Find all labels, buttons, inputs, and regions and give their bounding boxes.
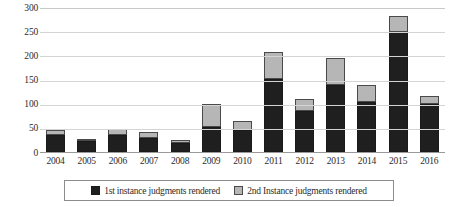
bar-segment-first-instance: [46, 135, 65, 152]
x-axis-tick-label: 2010: [227, 155, 258, 169]
legend-item[interactable]: 1st instance judgments rendered: [91, 186, 220, 196]
plot-area: 300250200150100500: [0, 8, 453, 154]
black-square-icon: [91, 186, 100, 195]
bar-stack: [171, 140, 190, 152]
x-axis-tick-label: 2016: [414, 155, 445, 169]
bar-segment-first-instance: [77, 141, 96, 152]
bar-stack: [357, 85, 376, 152]
x-axis-tick-label: 2006: [102, 155, 133, 169]
bar-segment-first-instance: [389, 32, 408, 152]
bar-column: [71, 7, 102, 152]
bar-column: [165, 7, 196, 152]
bar-segment-first-instance: [295, 111, 314, 152]
x-axis-tick-label: 2005: [71, 155, 102, 169]
bar-column: [102, 7, 133, 152]
bar-stack: [77, 139, 96, 152]
x-axis: 2004200520062007200820092010201120122013…: [40, 155, 445, 169]
bar-segment-first-instance: [139, 138, 158, 152]
x-axis-tick-label: 2004: [40, 155, 71, 169]
bar-segment-first-instance: [420, 104, 439, 152]
bar-column: [289, 7, 320, 152]
bar-column: [258, 7, 289, 152]
bar-column: [414, 7, 445, 152]
bar-segment-second-instance: [420, 96, 439, 104]
y-axis: 300250200150100500: [8, 8, 38, 154]
gridline: [40, 32, 445, 33]
legend-item-label: 2nd Instance judgments rendered: [247, 186, 367, 196]
bar-stack: [46, 130, 65, 152]
grid-area: [40, 8, 445, 153]
bar-segment-first-instance: [264, 79, 283, 152]
bar-segment-first-instance: [171, 143, 190, 152]
bar-column: [227, 7, 258, 152]
bar-stack: [389, 16, 408, 152]
bar-segment-first-instance: [326, 85, 345, 152]
stacked-bar-chart: 300250200150100500 200420052006200720082…: [0, 0, 453, 207]
bar-stack: [233, 121, 252, 152]
x-axis-tick-label: 2013: [320, 155, 351, 169]
bar-column: [351, 7, 382, 152]
bar-segment-first-instance: [233, 130, 252, 152]
bar-stack: [264, 52, 283, 152]
y-axis-tick-label: 0: [8, 149, 38, 158]
bar-stack: [108, 129, 127, 152]
bar-segment-first-instance: [357, 102, 376, 152]
x-axis-tick-label: 2015: [383, 155, 414, 169]
x-axis-tick-label: 2012: [289, 155, 320, 169]
bar-column: [383, 7, 414, 152]
y-axis-tick-label: 100: [8, 100, 38, 109]
bar-segment-first-instance: [108, 135, 127, 152]
bar-column: [320, 7, 351, 152]
bar-segment-second-instance: [202, 104, 221, 127]
gridline: [40, 105, 445, 106]
legend-item-label: 1st instance judgments rendered: [104, 186, 220, 196]
chart-legend: 1st instance judgments rendered2nd Insta…: [64, 180, 394, 201]
bar-segment-second-instance: [357, 85, 376, 102]
bar-stack: [295, 99, 314, 152]
gridline: [40, 129, 445, 130]
bar-stack: [139, 132, 158, 152]
gridline: [40, 81, 445, 82]
x-axis-tick-label: 2008: [165, 155, 196, 169]
bar-column: [133, 7, 164, 152]
bar-segment-first-instance: [202, 127, 221, 152]
y-axis-tick-label: 50: [8, 124, 38, 133]
x-axis-tick-label: 2009: [196, 155, 227, 169]
x-axis-tick-label: 2007: [133, 155, 164, 169]
bar-column: [196, 7, 227, 152]
y-axis-tick-label: 300: [8, 4, 38, 13]
y-axis-tick-label: 250: [8, 28, 38, 37]
y-axis-tick-label: 150: [8, 76, 38, 85]
legend-item[interactable]: 2nd Instance judgments rendered: [234, 186, 367, 196]
gridline: [40, 8, 445, 9]
bar-segment-second-instance: [389, 16, 408, 32]
x-axis-tick-label: 2011: [258, 155, 289, 169]
bar-group: [40, 7, 445, 152]
gray-square-icon: [234, 186, 243, 195]
gridline: [40, 56, 445, 57]
y-axis-tick-label: 200: [8, 52, 38, 61]
bar-column: [40, 7, 71, 152]
x-axis-tick-label: 2014: [351, 155, 382, 169]
